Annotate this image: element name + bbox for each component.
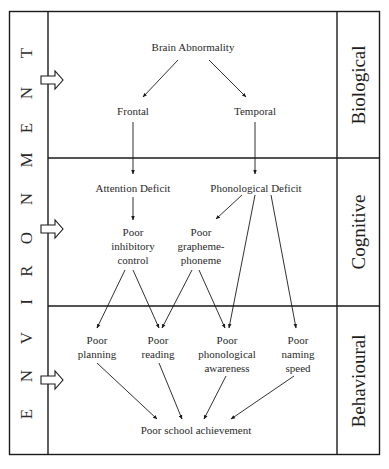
- environment-letter: M: [17, 152, 37, 167]
- node-attention-deficit: Attention Deficit: [96, 181, 171, 195]
- node-poor-planning: Poor planning: [78, 333, 117, 361]
- level-label-behavioural: Behavioural: [348, 335, 370, 428]
- node-brain-abnormality: Brain Abnormality: [152, 40, 235, 54]
- environment-letter: R: [17, 265, 37, 276]
- node-frontal: Frontal: [117, 104, 149, 118]
- node-poor-naming-speed: Poor naming speed: [282, 333, 315, 375]
- environment-letter: N: [17, 193, 37, 205]
- node-poor-inhibitory-control: Poor inhibitory control: [111, 225, 154, 267]
- environment-letter: V: [17, 332, 37, 344]
- node-poor-phonological-awareness: Poor phonological awareness: [198, 333, 255, 375]
- level-label-biological: Biological: [348, 45, 370, 124]
- node-poor-school-achievement: Poor school achievement: [141, 423, 252, 437]
- environment-letter: E: [17, 409, 37, 419]
- environment-arrow-behavioural: [41, 371, 63, 389]
- environment-arrow-cognitive: [41, 220, 63, 238]
- environment-arrows: [41, 71, 63, 389]
- environment-letter: I: [17, 299, 37, 305]
- environment-arrow-biological: [41, 71, 63, 89]
- environment-letter: N: [17, 87, 37, 99]
- node-poor-reading: Poor reading: [142, 333, 175, 361]
- environment-letter: N: [17, 370, 37, 382]
- environment-letter: O: [17, 232, 37, 244]
- node-temporal: Temporal: [234, 104, 276, 118]
- diagram-canvas: E N V I R O N M E N T Biological Cogniti…: [0, 0, 389, 469]
- node-poor-grapheme-phoneme: Poor grapheme- phoneme: [177, 225, 224, 267]
- level-label-cognitive: Cognitive: [348, 195, 370, 270]
- environment-letter: T: [17, 48, 37, 58]
- node-phonological-deficit: Phonological Deficit: [210, 181, 301, 195]
- environment-letter: E: [17, 123, 37, 133]
